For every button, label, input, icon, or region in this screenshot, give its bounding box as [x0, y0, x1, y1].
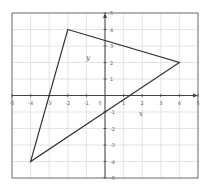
y-tick-label: 4	[110, 27, 113, 33]
x-tick-label: -1	[84, 100, 89, 106]
x-tick-label: 3	[159, 100, 162, 106]
y-tick-label: -3	[110, 142, 115, 148]
axes	[12, 13, 198, 178]
y-tick-label: 3	[110, 43, 113, 49]
y-tick-label: -4	[110, 159, 115, 165]
y-tick-label: 5	[110, 10, 113, 16]
y-tick-label: -2	[110, 126, 115, 132]
x-tick-label: 2	[141, 100, 144, 106]
x-axis-arrow-icon	[193, 94, 198, 98]
y-axis-arrow-icon	[103, 13, 107, 18]
x-tick-label: 5	[196, 100, 199, 106]
x-tick-label: 0	[98, 100, 101, 106]
y-tick-label: 1	[110, 76, 113, 82]
coordinate-plane: -5-4-3-2-1012345 -5-4-3-2-112345 x y	[0, 0, 209, 187]
x-tick-label: -5	[10, 100, 15, 106]
x-tick-label: 4	[178, 100, 181, 106]
y-tick-label: -1	[110, 109, 115, 115]
y-axis-label: y	[85, 54, 91, 62]
y-tick-label: -5	[110, 175, 115, 181]
x-tick-label: -4	[28, 100, 33, 106]
y-tick-label: 2	[110, 60, 113, 66]
x-tick-label: -2	[65, 100, 70, 106]
x-axis-label: x	[139, 110, 143, 118]
